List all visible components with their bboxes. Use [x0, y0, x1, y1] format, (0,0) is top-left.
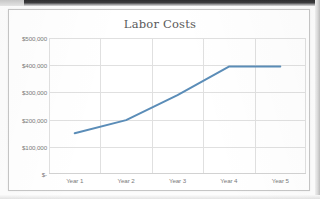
- y-axis-tick-label: $300,000: [7, 89, 47, 96]
- scan-artifact-right-edge: [315, 0, 320, 199]
- y-axis-tick-label: $200,000: [7, 116, 47, 123]
- x-axis-tick-label: Year 5: [272, 177, 289, 184]
- chart-container: Labor Costs $-$100,000$200,000$300,000$4…: [8, 9, 310, 191]
- x-axis-tick-label: Year 3: [169, 177, 186, 184]
- y-axis-tick-label: $100,000: [7, 143, 47, 150]
- x-axis-tick-label: Year 2: [118, 177, 135, 184]
- y-axis: $-$100,000$200,000$300,000$400,000$500,0…: [9, 38, 47, 174]
- series-labor-costs: [49, 38, 306, 174]
- scanned-page-background: Labor Costs $-$100,000$200,000$300,000$4…: [0, 0, 320, 199]
- x-axis-tick-label: Year 1: [66, 177, 83, 184]
- scan-artifact-top-band: [0, 0, 320, 6]
- chart-title: Labor Costs: [9, 17, 311, 31]
- x-axis-tick-label: Year 4: [220, 177, 237, 184]
- scan-artifact-bottom-edge: [0, 195, 320, 199]
- x-axis: Year 1Year 2Year 3Year 4Year 5: [49, 177, 306, 191]
- plot-area: [49, 38, 306, 174]
- scan-artifact-top-left: [0, 0, 24, 6]
- y-axis-tick-label: $-: [7, 171, 47, 178]
- y-axis-tick-label: $500,000: [7, 35, 47, 42]
- series-line: [75, 67, 281, 134]
- y-axis-tick-label: $400,000: [7, 62, 47, 69]
